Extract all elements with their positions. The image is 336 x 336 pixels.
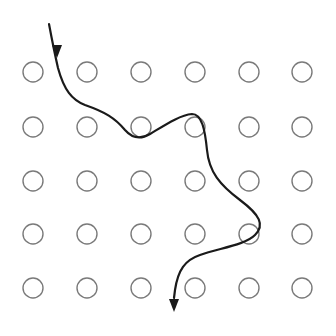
grid-circle (77, 117, 97, 137)
grid-circle (131, 224, 151, 244)
grid-circle (292, 171, 312, 191)
grid-circle (292, 278, 312, 298)
grid-circle (239, 62, 259, 82)
grid-circle (185, 62, 205, 82)
grid-circle (131, 278, 151, 298)
grid-circle (77, 278, 97, 298)
grid-circle (77, 224, 97, 244)
grid-circle (77, 62, 97, 82)
grid-circle (239, 171, 259, 191)
grid-circle (131, 62, 151, 82)
arrowhead-end-icon (169, 299, 179, 312)
grid-circle (292, 117, 312, 137)
grid-circle (239, 278, 259, 298)
grid-circle (185, 224, 205, 244)
circle-grid (23, 62, 312, 298)
grid-circle (185, 278, 205, 298)
grid-circle (292, 224, 312, 244)
grid-circle (239, 117, 259, 137)
grid-circle (23, 224, 43, 244)
grid-circle (23, 278, 43, 298)
grid-circle (23, 117, 43, 137)
diagram-canvas (0, 0, 336, 336)
grid-circle (131, 171, 151, 191)
grid-circle (185, 117, 205, 137)
grid-circle (23, 171, 43, 191)
grid-circle (292, 62, 312, 82)
grid-circle (23, 62, 43, 82)
circle-grid-diagram (0, 0, 336, 336)
grid-circle (77, 171, 97, 191)
grid-circle (185, 171, 205, 191)
